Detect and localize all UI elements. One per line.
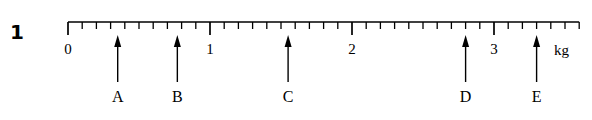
- tick-label-0: 0: [64, 41, 72, 57]
- pointer-c: [285, 35, 292, 82]
- pointer-label-c: C: [283, 88, 294, 106]
- pointer-arrowhead: [114, 35, 121, 47]
- pointer-a: [114, 35, 121, 82]
- unit-label-kg: kg: [554, 42, 569, 58]
- tick-label-3: 3: [490, 41, 498, 57]
- pointer-arrowhead: [462, 35, 469, 47]
- pointer-arrowhead: [533, 35, 540, 47]
- pointer-arrowhead: [285, 35, 292, 47]
- pointer-label-e: E: [532, 88, 542, 106]
- ruler-graphic: [0, 0, 592, 120]
- scale-reading-figure: 1 0123 ABCDE kg: [0, 0, 592, 120]
- tick-label-1: 1: [206, 41, 214, 57]
- pointer-arrows: [114, 35, 540, 82]
- pointer-d: [462, 35, 469, 82]
- pointer-label-a: A: [112, 88, 124, 106]
- ruler-ticks: [68, 22, 579, 35]
- pointer-label-b: B: [172, 88, 183, 106]
- tick-label-2: 2: [348, 41, 356, 57]
- pointer-e: [533, 35, 540, 82]
- pointer-label-d: D: [460, 88, 472, 106]
- pointer-b: [174, 35, 181, 82]
- pointer-arrowhead: [174, 35, 181, 47]
